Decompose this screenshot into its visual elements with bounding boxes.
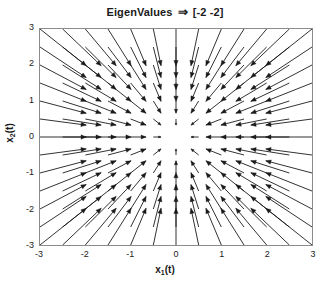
vector-arrow-head bbox=[126, 161, 132, 165]
x-tick-label: 3 bbox=[301, 249, 325, 259]
title-name: EigenValues bbox=[107, 6, 173, 18]
vector-arrow-head bbox=[236, 135, 241, 139]
vector-arrow-head bbox=[81, 110, 87, 114]
vector-arrow-head bbox=[251, 173, 257, 177]
vector-arrow-head bbox=[190, 185, 194, 191]
vector-arrow-head bbox=[175, 123, 177, 125]
vector-arrow-head bbox=[221, 161, 227, 165]
vector-arrow-shaft bbox=[63, 208, 102, 245]
vector-arrow-head bbox=[96, 148, 101, 152]
vector-arrow-head bbox=[157, 161, 161, 166]
x-tick-label: -1 bbox=[118, 249, 142, 259]
vector-arrow-head bbox=[206, 208, 210, 214]
vector-arrow-shaft bbox=[131, 29, 146, 66]
vector-arrow-shaft bbox=[266, 208, 312, 245]
vector-arrow-head bbox=[111, 109, 117, 113]
vector-arrow-head bbox=[126, 72, 131, 77]
vector-arrow-head bbox=[157, 96, 161, 102]
vector-arrow-head bbox=[126, 122, 132, 126]
vector-arrow-head bbox=[141, 84, 146, 90]
vector-arrow-head bbox=[111, 161, 117, 165]
vector-arrow-head bbox=[251, 135, 256, 139]
vector-arrow-head bbox=[174, 173, 178, 178]
y-axis-label-subscript: 2 bbox=[9, 133, 16, 137]
vector-arrow-head bbox=[140, 121, 146, 125]
vector-arrow-shaft bbox=[206, 29, 221, 66]
vector-arrow-head bbox=[81, 85, 87, 89]
vector-arrow-head bbox=[174, 161, 177, 165]
plot-area bbox=[39, 28, 313, 246]
vector-arrow-head bbox=[266, 110, 272, 114]
vector-arrow-head bbox=[266, 73, 271, 78]
vector-arrow-head bbox=[126, 109, 132, 113]
vector-arrow-head bbox=[251, 148, 256, 152]
vector-field bbox=[40, 29, 312, 245]
y-tick-label: -2 bbox=[12, 204, 34, 214]
vector-arrow-head bbox=[127, 60, 132, 66]
y-axis-label-main: x bbox=[4, 137, 15, 143]
vector-arrow-head bbox=[206, 121, 212, 125]
vector-arrow-head bbox=[96, 97, 102, 101]
vector-arrow-head bbox=[221, 148, 227, 152]
phase-portrait-figure: EigenValues ⇒ [-2 -2] -3-2-10123 3210-1-… bbox=[0, 0, 330, 286]
vector-arrow-head bbox=[206, 149, 212, 153]
vector-arrow-head bbox=[206, 72, 210, 78]
vector-arrow-shaft bbox=[191, 208, 199, 245]
vector-arrow-head bbox=[251, 185, 257, 190]
vector-arrow-head bbox=[266, 196, 271, 201]
y-axis-label: x2(t) bbox=[4, 103, 16, 163]
vector-arrow-shaft bbox=[131, 208, 146, 245]
vector-arrow-head bbox=[266, 160, 272, 164]
vector-arrow-head bbox=[221, 60, 226, 66]
vector-arrow-head bbox=[142, 196, 146, 202]
vector-arrow-head bbox=[81, 160, 87, 164]
vector-arrow-shaft bbox=[40, 161, 86, 173]
y-tick-label: 2 bbox=[12, 58, 34, 68]
x-tick-label: 2 bbox=[255, 249, 279, 259]
vector-arrow-shaft bbox=[153, 208, 161, 245]
vector-arrow-head bbox=[251, 85, 257, 90]
vector-arrow-head bbox=[158, 72, 162, 78]
vector-arrow-shaft bbox=[266, 161, 312, 173]
vector-arrow-shaft bbox=[206, 208, 221, 245]
vector-arrow-head bbox=[142, 60, 146, 66]
vector-arrow-head bbox=[191, 173, 195, 179]
vector-arrow-head bbox=[266, 85, 272, 89]
vector-arrow-head bbox=[190, 196, 194, 202]
vector-arrow-shaft bbox=[266, 47, 312, 78]
vector-arrow-shaft bbox=[266, 29, 312, 66]
vector-arrow-head bbox=[157, 84, 161, 90]
title-eigenvalues: [-2 -2] bbox=[193, 6, 224, 18]
vector-arrow-shaft bbox=[40, 101, 86, 113]
vector-arrow-head bbox=[174, 84, 178, 89]
vector-arrow-head bbox=[158, 60, 162, 65]
vector-arrow-head bbox=[111, 173, 117, 177]
vector-arrow-head bbox=[221, 109, 227, 113]
vector-arrow-head bbox=[266, 185, 272, 189]
y-tick-label: -3 bbox=[12, 240, 34, 250]
vector-arrow-head bbox=[159, 136, 161, 138]
vector-arrow-head bbox=[236, 109, 242, 113]
vector-arrow-head bbox=[141, 135, 146, 139]
vector-arrow-head bbox=[236, 97, 242, 101]
vector-arrow-head bbox=[236, 148, 241, 152]
vector-arrow-head bbox=[190, 208, 194, 213]
vector-arrow-head bbox=[251, 97, 257, 101]
vector-arrow-head bbox=[190, 72, 194, 78]
vector-arrow-head bbox=[142, 208, 146, 214]
vector-arrow-head bbox=[251, 160, 257, 164]
y-axis-label-suffix: (t) bbox=[4, 123, 15, 133]
vector-arrow-head bbox=[158, 208, 162, 213]
vector-arrow-head bbox=[157, 108, 161, 113]
vector-arrow-head bbox=[251, 110, 257, 114]
vector-arrow-head bbox=[190, 84, 194, 90]
vector-arrow-head bbox=[266, 97, 272, 101]
vector-arrow-shaft bbox=[266, 101, 312, 113]
vector-arrow-shaft bbox=[251, 208, 290, 245]
vector-arrow-head bbox=[221, 135, 226, 139]
implies-arrow-icon: ⇒ bbox=[176, 5, 190, 19]
vector-arrow-shaft bbox=[191, 29, 199, 66]
x-tick-label: -2 bbox=[73, 249, 97, 259]
vector-arrow-head bbox=[141, 185, 146, 191]
vector-arrow-shaft bbox=[40, 196, 86, 227]
